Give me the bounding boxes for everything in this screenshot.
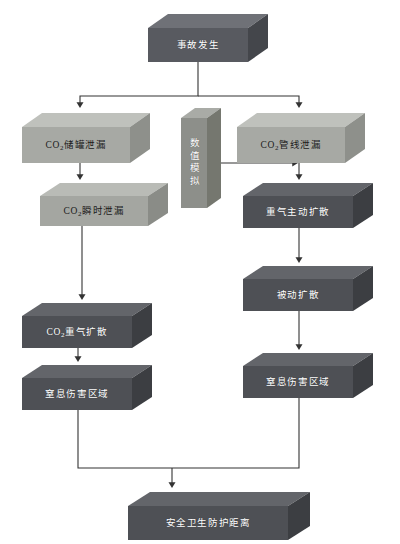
node-accident-front-face: 事故发生 <box>148 28 248 62</box>
node-co2-pipeline-leak-front-face: CO2管线泄漏 <box>237 127 345 163</box>
node-co2-heavy-gas-diffusion-top-face <box>22 303 152 316</box>
node-co2-pipeline-leak-top-face <box>237 113 365 127</box>
node-heavy-gas-active-diffusion-label: 重气主动扩散 <box>266 207 330 218</box>
diagram-canvas: 事故发生 CO2储罐泄漏 CO2管线泄漏 数值模拟 CO2瞬时泄漏 重 <box>0 0 400 544</box>
node-co2-tank-leak[interactable]: CO2储罐泄漏 <box>22 127 130 163</box>
node-heavy-gas-active-diffusion-top-face <box>243 183 373 196</box>
node-asphyxiation-harm-area-left-front-face: 窒息伤害区域 <box>22 378 132 410</box>
node-co2-heavy-gas-diffusion-front-face: CO2重气扩散 <box>22 316 132 348</box>
node-safety-health-protection-distance-front-face: 安全卫生防护距离 <box>128 506 288 540</box>
node-passive-diffusion[interactable]: 被动扩散 <box>243 279 353 311</box>
node-asphyxiation-harm-area-right-top-face <box>243 353 373 366</box>
node-accident[interactable]: 事故发生 <box>148 28 248 62</box>
edge-accident-split <box>80 62 299 106</box>
node-co2-heavy-gas-diffusion[interactable]: CO2重气扩散 <box>22 316 132 348</box>
node-safety-health-protection-distance-label: 安全卫生防护距离 <box>166 518 251 529</box>
node-asphyxiation-harm-area-left-top-face <box>22 365 152 378</box>
node-co2-instantaneous-leak-top-face <box>40 183 168 196</box>
node-co2-instantaneous-leak-front-face: CO2瞬时泄漏 <box>40 196 148 226</box>
node-heavy-gas-active-diffusion-front-face: 重气主动扩散 <box>243 196 353 228</box>
node-asphyxiation-harm-area-left-label: 窒息伤害区域 <box>45 389 109 400</box>
node-accident-top-face <box>148 14 268 28</box>
node-numerical-simulation[interactable]: 数值模拟 <box>181 118 207 208</box>
node-asphyxiation-harm-area-right-front-face: 窒息伤害区域 <box>243 366 353 398</box>
node-asphyxiation-harm-area-left[interactable]: 窒息伤害区域 <box>22 378 132 410</box>
node-co2-tank-leak-label: CO2储罐泄漏 <box>46 140 107 151</box>
node-numerical-simulation-side-face <box>207 108 221 208</box>
node-passive-diffusion-front-face: 被动扩散 <box>243 279 353 311</box>
node-numerical-simulation-label: 数值模拟 <box>189 138 200 188</box>
node-co2-pipeline-leak[interactable]: CO2管线泄漏 <box>237 127 345 163</box>
node-asphyxiation-harm-area-right-label: 窒息伤害区域 <box>266 377 330 388</box>
node-passive-diffusion-label: 被动扩散 <box>277 290 319 301</box>
node-asphyxiation-harm-area-right[interactable]: 窒息伤害区域 <box>243 366 353 398</box>
node-co2-tank-leak-top-face <box>22 113 150 127</box>
node-co2-heavy-gas-diffusion-label: CO2重气扩散 <box>47 327 108 338</box>
node-co2-tank-leak-front-face: CO2储罐泄漏 <box>22 127 130 163</box>
node-co2-instantaneous-leak[interactable]: CO2瞬时泄漏 <box>40 196 148 226</box>
node-safety-health-protection-distance[interactable]: 安全卫生防护距离 <box>128 506 288 540</box>
node-passive-diffusion-top-face <box>243 266 373 279</box>
node-co2-pipeline-leak-label: CO2管线泄漏 <box>261 140 322 151</box>
node-heavy-gas-active-diffusion[interactable]: 重气主动扩散 <box>243 196 353 228</box>
node-safety-health-protection-distance-top-face <box>128 492 310 506</box>
node-numerical-simulation-front-face: 数值模拟 <box>181 118 207 208</box>
node-accident-label: 事故发生 <box>177 40 219 51</box>
node-co2-instantaneous-leak-label: CO2瞬时泄漏 <box>64 206 125 217</box>
